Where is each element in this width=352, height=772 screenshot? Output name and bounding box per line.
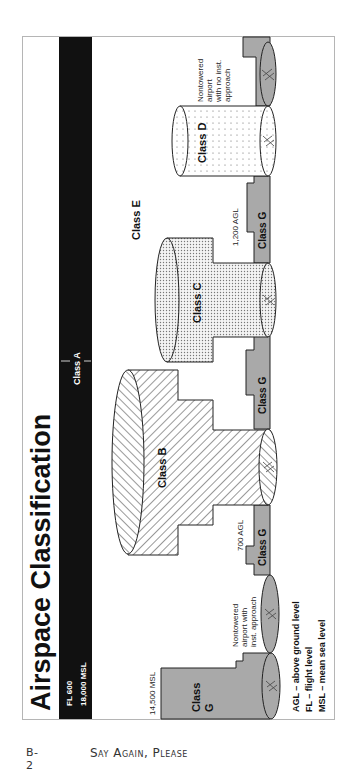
svg-text:approach: approach [223,69,232,102]
nontowered-airport-no-inst [260,42,276,106]
legend-fl: FL – flight level [304,647,314,712]
svg-text:airport with: airport with [240,608,249,647]
class-g-large-label-1: Class [190,683,202,712]
svg-text:inst. approach: inst. approach [249,597,258,647]
class-e-label: Class E [130,200,142,240]
legend-msl: MSL – mean sea level [317,620,327,712]
altitude-14500-msl: 14,500 MSL [148,671,157,715]
class-g-label-dc: Class G [257,212,268,249]
svg-text:with no inst.: with no inst. [214,60,223,103]
class-c-label: Class C [191,283,203,323]
class-a-label: Class A [72,352,82,385]
class-b-top [112,370,144,554]
class-d-body [180,106,268,176]
figure-title: Airspace Classification [26,414,56,711]
altitude-1200-agl: 1,200 AGL [231,208,240,246]
class-g-label-b: Class G [257,529,268,566]
svg-text:Nontowered: Nontowered [231,604,240,647]
svg-text:Nontowered: Nontowered [196,59,205,102]
lower-limit-label: 18,000 MSL [79,662,88,706]
svg-text:airport: airport [205,79,214,102]
class-d-label: Class D [196,123,208,163]
class-c-top [155,238,179,362]
upper-limit-label: FL 600 [65,680,74,706]
legend-agl: AGL – above ground level [291,601,301,712]
class-d-top [172,106,188,176]
altitude-700-agl: 700 AGL [236,519,245,551]
class-b-label: Class B [156,448,168,488]
page-number: B-2 [26,746,39,772]
class-g-label-cb: Class G [257,377,268,414]
class-g-large-label-2: G [203,703,215,712]
book-title: Say Again, Please [90,746,188,760]
